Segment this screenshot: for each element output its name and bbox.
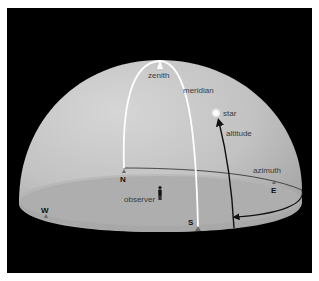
- south-label: S: [188, 218, 194, 227]
- west-label: W: [41, 206, 49, 215]
- star-core: [214, 111, 218, 115]
- east-label: E: [271, 186, 277, 195]
- meridian-label: meridian: [183, 86, 214, 95]
- observer-label: observer: [124, 195, 155, 204]
- horizon-plane-upper: [19, 174, 301, 226]
- celestial-sphere-diagram: zenith meridian star altitude azimuth ob…: [0, 0, 319, 281]
- star-label: star: [223, 109, 237, 118]
- zenith-label: zenith: [148, 71, 169, 80]
- north-label: N: [120, 175, 126, 184]
- altitude-label: altitude: [226, 129, 252, 138]
- azimuth-label: azimuth: [253, 166, 281, 175]
